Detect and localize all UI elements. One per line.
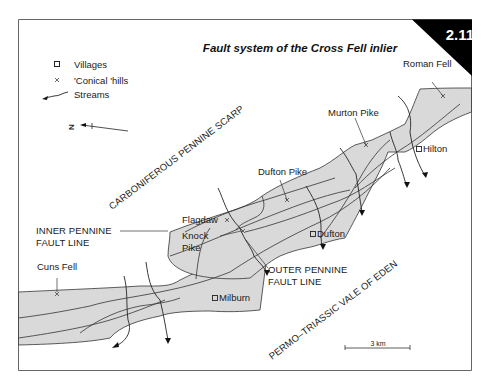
knock-pike-label-1: Knock [182, 230, 209, 241]
map-legend: Villages 'Conical 'hills Streams [42, 59, 129, 100]
stream-symbol-icon [42, 92, 68, 100]
legend-streams-label: Streams [74, 89, 110, 100]
outer-fault-label-2: FAULT LINE [268, 276, 321, 287]
legend-hills-label: 'Conical 'hills [74, 75, 129, 86]
hilton-label: Hilton [423, 143, 447, 154]
village-symbol-icon [55, 62, 60, 67]
scarp-region-label: CARBONIFEROUS PENNINE SCARP [107, 103, 246, 212]
legend-villages-label: Villages [74, 59, 107, 70]
roman-fell-label: Roman Fell [403, 58, 452, 69]
inner-fault-label-2: FAULT LINE [36, 237, 89, 248]
scale-bar-label: 3 km [370, 340, 385, 347]
map-title: Fault system of the Cross Fell inlier [203, 42, 398, 54]
outer-fault-label-1: OUTER PENNINE [268, 264, 347, 275]
knock-pike-label-2: Pike [182, 242, 200, 253]
milburn-label: Milburn [219, 292, 250, 303]
cuns-fell-label: Cuns Fell [37, 261, 77, 272]
flagdaw-label: Flagdaw [182, 214, 218, 225]
map-canvas: 2.11 Fault system of the Cross Fell inli… [0, 0, 481, 391]
dufton-pike-label: Dufton Pike [258, 166, 307, 177]
svg-text:N: N [67, 124, 76, 130]
inner-fault-label-1: INNER PENNINE [36, 225, 112, 236]
north-arrow-icon: N [67, 123, 128, 131]
conical-hill-symbol-icon [55, 78, 59, 82]
hilton-marker-icon [417, 147, 422, 152]
murton-pike-label: Murton Pike [328, 107, 379, 118]
svg-text:2.11: 2.11 [446, 26, 474, 43]
dufton-label: Dufton [317, 228, 345, 239]
